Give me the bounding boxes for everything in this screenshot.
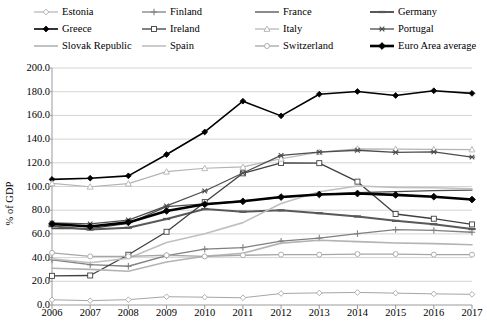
legend-item-label: Euro Area average — [398, 40, 476, 52]
legend-row: EstoniaFinlandFranceGermany — [0, 4, 479, 20]
diamond-open-icon — [32, 6, 62, 18]
legend-item-label: Greece — [62, 23, 92, 35]
legend-item-euro-area-average[interactable]: Euro Area average — [368, 38, 476, 54]
legend-item-label: Ireland — [170, 23, 200, 35]
legend-item-label: Finland — [170, 6, 202, 18]
diamond-filled-icon — [32, 23, 62, 35]
series-estonia — [49, 290, 475, 304]
diamond-filled-lg-icon — [368, 40, 398, 52]
dash-icon — [368, 6, 398, 18]
legend-item-greece[interactable]: Greece — [32, 21, 92, 37]
legend-item-spain[interactable]: Spain — [140, 38, 194, 54]
legend-item-slovak-republic[interactable]: Slovak Republic — [32, 38, 132, 54]
triangle-open-icon — [253, 23, 283, 35]
plot-area: % of GDP 0.020.040.060.080.0100.0120.014… — [0, 58, 479, 332]
legend-item-finland[interactable]: Finland — [140, 4, 202, 20]
none-icon — [32, 40, 62, 52]
legend-item-ireland[interactable]: Ireland — [140, 21, 200, 37]
chart-legend: EstoniaFinlandFranceGermanyGreeceIreland… — [0, 4, 479, 56]
star-icon — [368, 23, 398, 35]
legend-item-label: Estonia — [62, 6, 94, 18]
legend-item-estonia[interactable]: Estonia — [32, 4, 94, 20]
none-icon — [253, 6, 283, 18]
circle-open-icon — [253, 40, 283, 52]
square-open-icon — [140, 23, 170, 35]
legend-item-label: France — [283, 6, 312, 18]
legend-row: GreeceIrelandItalyPortugal — [0, 21, 479, 37]
legend-item-italy[interactable]: Italy — [253, 21, 302, 37]
legend-item-label: Spain — [170, 40, 194, 52]
legend-item-label: Italy — [283, 23, 302, 35]
legend-item-france[interactable]: France — [253, 4, 312, 20]
legend-item-germany[interactable]: Germany — [368, 4, 437, 20]
legend-item-label: Portugal — [398, 23, 434, 35]
line-chart-canvas — [0, 58, 479, 332]
legend-item-label: Slovak Republic — [62, 40, 132, 52]
legend-item-switzerland[interactable]: Switzerland — [253, 38, 333, 54]
none-icon — [140, 40, 170, 52]
legend-item-label: Germany — [398, 6, 437, 18]
series-germany — [48, 208, 475, 231]
legend-item-label: Switzerland — [283, 40, 333, 52]
plus-icon — [140, 6, 170, 18]
legend-row: Slovak RepublicSpainSwitzerlandEuro Area… — [0, 38, 479, 54]
legend-item-portugal[interactable]: Portugal — [368, 21, 434, 37]
